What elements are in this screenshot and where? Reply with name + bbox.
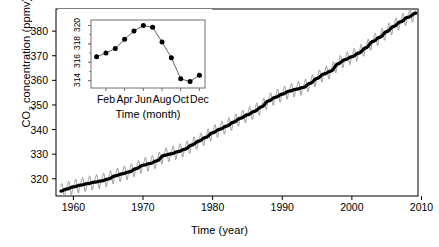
main-y-tick-340: 340 xyxy=(30,124,48,136)
inset-x-axis-title: Time (month) xyxy=(116,108,181,120)
inset-x-tick-dec: Dec xyxy=(190,93,209,105)
inset-x-tick-feb: Feb xyxy=(97,93,115,105)
main-x-tick-2010: 2010 xyxy=(410,201,433,213)
inset-x-tick-aug: Aug xyxy=(153,93,172,105)
main-y-tick-330: 330 xyxy=(30,148,48,160)
inset-point-Apr xyxy=(122,37,127,42)
inset-point-Feb xyxy=(103,51,108,56)
inset-y-tick-318: 318 xyxy=(72,33,82,53)
inset-y-tick-316: 316 xyxy=(72,51,82,71)
co2-figure: CO2 concentration (ppmv) 320330340350360… xyxy=(0,0,439,247)
main-x-tick-2000: 2000 xyxy=(340,201,363,213)
inset-point-Mar xyxy=(113,46,118,51)
inset-point-Dec xyxy=(197,73,202,78)
main-x-tick-labels: 196019701980199020002010 xyxy=(0,201,439,217)
inset-x-tick-oct: Oct xyxy=(173,93,189,105)
inset-point-Jan xyxy=(94,54,99,59)
inset-point-May xyxy=(131,29,136,34)
inset-point-Jul xyxy=(150,25,155,30)
inset-point-Aug xyxy=(160,40,165,45)
main-y-tick-360: 360 xyxy=(30,74,48,86)
main-x-tick-1980: 1980 xyxy=(201,201,224,213)
inset-x-tick-jun: Jun xyxy=(135,93,152,105)
main-y-tick-350: 350 xyxy=(30,99,48,111)
inset-point-Sep xyxy=(169,55,174,60)
main-x-tick-1990: 1990 xyxy=(271,201,294,213)
inset-point-Nov xyxy=(188,79,193,84)
main-y-tick-320: 320 xyxy=(30,173,48,185)
inset-point-Oct xyxy=(178,76,183,81)
inset-point-Jun xyxy=(141,23,146,28)
inset-x-tick-apr: Apr xyxy=(116,93,132,105)
main-y-tick-380: 380 xyxy=(30,25,48,37)
main-x-tick-1970: 1970 xyxy=(131,201,154,213)
main-y-tick-370: 370 xyxy=(30,50,48,62)
main-x-axis-title: Time (year) xyxy=(0,224,439,236)
inset-y-tick-314: 314 xyxy=(72,70,82,90)
inset-y-tick-320: 320 xyxy=(72,15,82,35)
main-x-tick-1960: 1960 xyxy=(62,201,85,213)
